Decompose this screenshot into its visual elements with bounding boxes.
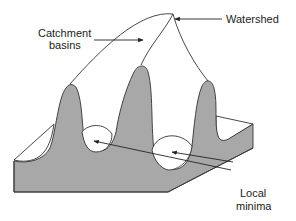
- watershed-diagram: Catchment basins Watershed Local minima: [0, 0, 296, 221]
- label-catchment-line1: Catchment: [38, 27, 91, 39]
- label-local-line2: minima: [236, 200, 272, 212]
- label-local-line1: Local: [240, 187, 266, 199]
- label-catchment-line2: basins: [49, 39, 81, 51]
- label-watershed: Watershed: [226, 13, 279, 25]
- watershed-curve-right: [173, 14, 208, 81]
- watershed-curve-middle: [141, 14, 173, 65]
- watershed-curve-left: [70, 14, 173, 84]
